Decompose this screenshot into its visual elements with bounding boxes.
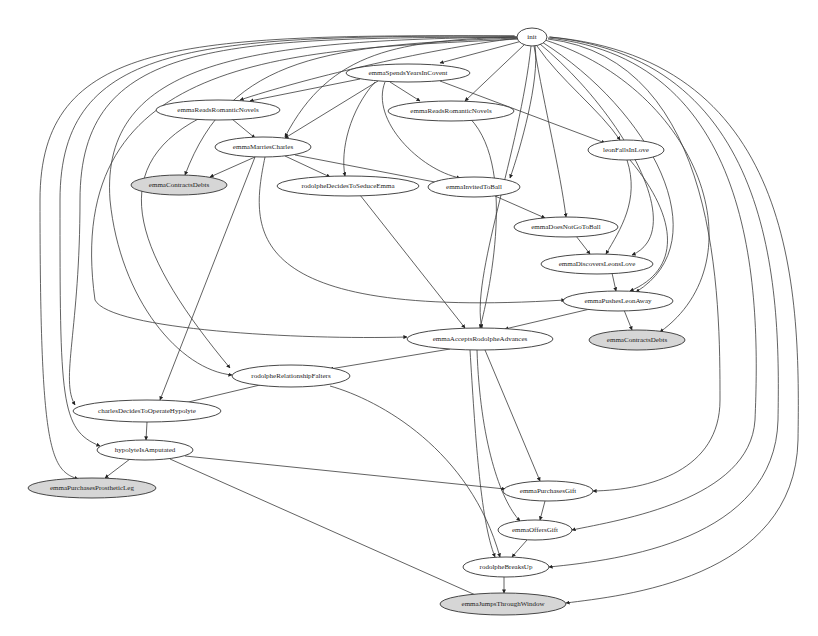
graph-edge <box>180 385 260 404</box>
node-emmaOffersGift[interactable]: emmaOffersGift <box>498 520 572 540</box>
node-label: emmaDoesNotGoToBall <box>531 223 601 231</box>
graph-edge <box>460 110 496 328</box>
node-emmaAcceptsRodolpheAdvances[interactable]: emmaAcceptsRodolpheAdvances <box>407 328 553 350</box>
graph-edge <box>606 160 631 254</box>
node-emmaContractsDebts2[interactable]: emmaContractsDebts <box>589 330 685 350</box>
graph-edge <box>285 156 330 177</box>
node-hypolyteIsAmputated[interactable]: hypolyteIsAmputated <box>97 440 193 460</box>
node-label: emmaInvitedToBall <box>446 183 502 191</box>
node-leonFallsInLove[interactable]: leonFallsInLove <box>588 140 664 160</box>
node-rodolpheBreaksUp[interactable]: rodolpheBreaksUp <box>463 557 549 577</box>
node-label: emmaContractsDebts <box>149 181 210 189</box>
node-emmaPushesLeonAway[interactable]: emmaPushesLeonAway <box>563 291 673 311</box>
node-label: emmaJumpsThroughWindow <box>462 600 546 608</box>
node-emmaDoesNotGoToBall[interactable]: emmaDoesNotGoToBall <box>514 217 618 237</box>
node-label: emmaContractsDebts <box>607 336 668 344</box>
graph-edge <box>512 540 527 557</box>
node-emmaPurchasesGift[interactable]: emmaPurchasesGift <box>503 481 593 501</box>
graph-edge <box>382 82 460 178</box>
node-rodolpheRelationshipFalters[interactable]: rodolpheRelationshipFalters <box>232 365 350 387</box>
graph-edge <box>360 195 465 328</box>
node-emmaPurchasesProstheticLeg[interactable]: emmaPurchasesProstheticLeg <box>28 478 156 498</box>
node-label: hypolyteIsAmputated <box>115 446 176 454</box>
node-emmaSpendsYearsInCovent[interactable]: emmaSpendsYearsInCovent <box>346 64 470 82</box>
node-label: charlesDecidesToOperateHypolyte <box>98 407 196 415</box>
node-label: emmaPurchasesProstheticLeg <box>50 484 134 492</box>
node-label: emmaReadsRomanticNovels <box>410 107 492 115</box>
node-label: leonFallsInLove <box>603 146 649 154</box>
graph-edge <box>505 309 590 329</box>
node-label: emmaSpendsYearsInCovent <box>368 69 447 77</box>
node-emmaReadsRomanticNovels2[interactable]: emmaReadsRomanticNovels <box>388 101 514 121</box>
node-emmaMarriesCharles[interactable]: emmaMarriesCharles <box>215 137 311 157</box>
node-emmaInvitedToBall[interactable]: emmaInvitedToBall <box>428 177 520 197</box>
node-emmaReadsRomanticNovels1[interactable]: emmaReadsRomanticNovels <box>156 100 280 120</box>
node-rodolpheDecidesToSeduceEmma[interactable]: rodolpheDecidesToSeduceEmma <box>277 176 419 196</box>
node-label: rodolpheBreaksUp <box>480 563 533 571</box>
graph-edge <box>548 38 756 530</box>
graph-edge <box>344 82 375 176</box>
graph-edge <box>495 196 545 218</box>
graph-edge <box>485 350 540 481</box>
graph-edge <box>170 459 480 597</box>
graph-edge <box>465 45 524 101</box>
node-emmaJumpsThroughWindow[interactable]: emmaJumpsThroughWindow <box>440 593 566 615</box>
graph-edge <box>612 273 616 291</box>
node-emmaDiscoversLeonsLove[interactable]: emmaDiscoversLeonsLove <box>541 254 653 274</box>
graph-edge <box>440 41 522 63</box>
graph-edge <box>534 46 566 217</box>
graph-edge <box>576 236 590 254</box>
graph-edge <box>330 349 450 369</box>
graph-edge <box>390 82 420 101</box>
node-label: emmaAcceptsRodolpheAdvances <box>433 335 528 343</box>
graph-edge <box>232 119 255 138</box>
graph-edge <box>250 79 360 101</box>
node-init[interactable]: init <box>517 28 547 46</box>
node-label: emmaPushesLeonAway <box>584 297 652 305</box>
node-label: emmaOffersGift <box>512 526 558 534</box>
graph-edge <box>285 81 378 138</box>
graph-edge <box>540 501 545 520</box>
graph-edge <box>146 422 147 440</box>
story-graph: initemmaSpendsYearsInCoventemmaReadsRoma… <box>0 0 818 636</box>
node-label: rodolpheRelationshipFalters <box>251 372 331 380</box>
node-label: emmaReadsRomanticNovels <box>177 106 259 114</box>
graph-edge <box>330 386 500 557</box>
node-label: emmaMarriesCharles <box>233 143 294 151</box>
graph-edge <box>470 350 495 557</box>
node-charlesDecidesToOperateHypolyte[interactable]: charlesDecidesToOperateHypolyte <box>73 400 221 422</box>
node-label: init <box>527 33 536 41</box>
node-label: rodolpheDecidesToSeduceEmma <box>301 182 395 190</box>
graph-edge <box>105 459 130 478</box>
node-emmaContractsDebts1[interactable]: emmaContractsDebts <box>131 175 227 195</box>
graph-edge <box>624 310 632 330</box>
node-label: emmaDiscoversLeonsLove <box>559 260 636 268</box>
edges-layer <box>40 36 798 603</box>
node-label: emmaPurchasesGift <box>520 487 576 495</box>
